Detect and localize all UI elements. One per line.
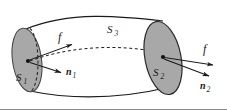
right-cap-center-point	[161, 55, 165, 59]
label-normal-left-sub: 1	[73, 71, 77, 80]
label-normal-right-base: n	[200, 80, 206, 91]
label-surface-left-base: S	[16, 71, 22, 83]
label-flux-right: f	[203, 42, 208, 56]
label-surface-lateral-base: S	[107, 23, 113, 35]
label-flux-right-base: f	[203, 42, 208, 56]
label-normal-right: n 2	[200, 80, 211, 94]
label-surface-right-sub: 2	[161, 72, 165, 81]
label-surface-left-sub: 1	[24, 77, 28, 86]
figure-canvas: S 3 S 1 S 2 f f n 1 n 2	[0, 0, 227, 111]
label-normal-left-base: n	[66, 66, 72, 77]
label-normal-right-sub: 2	[207, 85, 211, 94]
label-surface-right-base: S	[153, 66, 159, 78]
label-surface-lateral-sub: 3	[114, 29, 119, 38]
stream-tube-figure: S 3 S 1 S 2 f f n 1 n 2	[0, 0, 227, 111]
